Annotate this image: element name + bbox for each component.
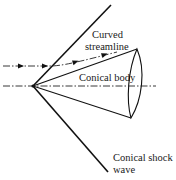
label-conical-shock-1: Conical shock — [113, 152, 173, 163]
streamline-arrow-icon — [72, 61, 79, 66]
streamline-arrow-icon — [18, 64, 24, 69]
streamline-arrow-icon — [42, 64, 48, 69]
label-curved-streamline-1: Curved — [92, 29, 123, 40]
cone-apex — [31, 84, 34, 87]
label-curved-streamline-2: streamline — [85, 41, 129, 52]
cone-base-ellipse — [128, 49, 142, 118]
shock-wave-lower — [33, 86, 108, 172]
label-conical-body: Conical body — [79, 72, 135, 83]
label-conical-shock-2: wave — [113, 164, 135, 175]
streamline-arrow-icon — [101, 53, 108, 58]
